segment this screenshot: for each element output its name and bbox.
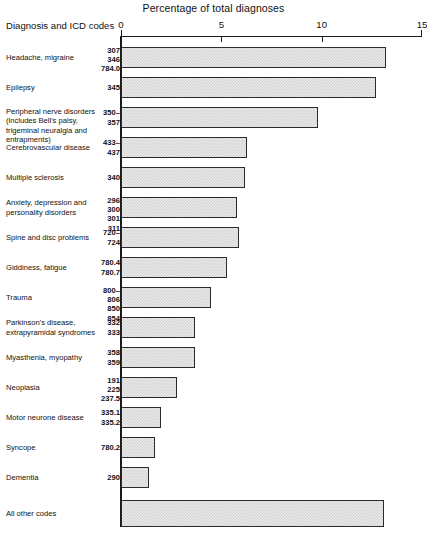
icd-code-label: 290 [86, 473, 120, 482]
bar [121, 107, 318, 128]
x-axis-tick-label: 10 [316, 19, 327, 30]
bar [121, 407, 161, 428]
x-axis-line [121, 36, 422, 37]
x-axis-tick-mark [421, 30, 422, 37]
bar-chart: Percentage of total diagnoses Diagnosis … [0, 0, 427, 555]
bar [121, 437, 155, 458]
bar [121, 227, 239, 248]
bar [121, 77, 376, 98]
bar [121, 500, 384, 527]
bar [121, 137, 247, 158]
chart-row: Motor neurone disease335.1335.2 [0, 407, 427, 428]
icd-code-label: 780.4780.7 [86, 258, 120, 276]
icd-code-label: 345 [86, 83, 120, 92]
chart-row: Headache, migraine307346784.0 [0, 47, 427, 68]
bar [121, 287, 211, 308]
x-axis-tick-label: 0 [118, 19, 123, 30]
chart-row: Spine and disc problems720–724 [0, 227, 427, 248]
chart-row: Dementia290 [0, 467, 427, 488]
chart-row: Peripheral nerve disorders (includes Bel… [0, 107, 427, 128]
x-axis-tick-mark [221, 36, 222, 42]
category-axis-label: Diagnosis and ICD codes [6, 20, 114, 31]
x-axis-tick-mark [322, 36, 323, 42]
bar [121, 257, 227, 278]
icd-code-label: 340 [86, 173, 120, 182]
bar [121, 317, 195, 338]
chart-row: Myasthenia, myopathy358359 [0, 347, 427, 368]
icd-code-label: 433–437 [86, 138, 120, 156]
chart-row: Syncope780.2 [0, 437, 427, 458]
chart-row: All other codes [0, 500, 427, 527]
icd-code-label: 350–357 [86, 108, 120, 126]
bar [121, 467, 149, 488]
icd-code-label: 358359 [86, 348, 120, 366]
chart-row: Anxiety, depression and personality diso… [0, 197, 427, 218]
x-axis-tick-label: 5 [219, 19, 224, 30]
icd-code-label: 335.1335.2 [86, 408, 120, 426]
bar [121, 377, 177, 398]
chart-row: Giddiness, fatigue780.4780.7 [0, 257, 427, 278]
bar [121, 167, 245, 188]
icd-code-label: 720–724 [86, 228, 120, 246]
icd-code-label: 332333 [86, 318, 120, 336]
icd-code-label: 191225237.5 [86, 376, 120, 404]
chart-row: Trauma800–806850854 [0, 287, 427, 308]
x-axis-tick-label: 15 [417, 19, 427, 30]
bar [121, 47, 386, 68]
bar [121, 197, 237, 218]
chart-row: Neoplasia191225237.5 [0, 377, 427, 398]
icd-code-label: 780.2 [86, 443, 120, 452]
icd-code-label: 307346784.0 [86, 46, 120, 74]
category-label: All other codes [6, 509, 104, 518]
chart-row: Cerebrovascular disease433–437 [0, 137, 427, 158]
chart-row: Epilepsy345 [0, 77, 427, 98]
chart-axis-title: Percentage of total diagnoses [0, 2, 427, 14]
chart-row: Multiple sclerosis340 [0, 167, 427, 188]
chart-row: Parkinson's disease, extrapyramidal synd… [0, 317, 427, 338]
bar [121, 347, 195, 368]
